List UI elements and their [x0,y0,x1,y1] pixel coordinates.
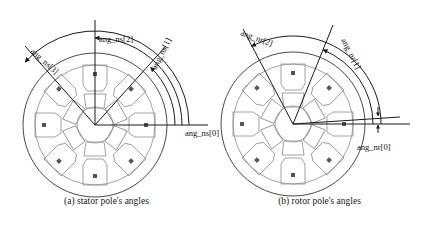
label-ang-nr-2: ang_nr[2] [239,27,274,48]
label-ang-ns-1: ang_ns[1] [149,36,173,71]
figure-root: ang_ns[0] ang_ns[1] ang_ns[2] ang_ns[3] [0,0,426,228]
label-ang-ns-2: ang_ns[2] [99,34,133,44]
label-ang-nr-1: ang_nr[1] [339,36,363,71]
caption-stator-panel: (a) stator pole's angles [0,196,213,206]
rotor-arc-ang-nr-2 [252,36,381,124]
panel-stator: ang_ns[0] ang_ns[1] ang_ns[2] ang_ns[3] [23,20,219,197]
label-ang-nr-0: ang_nr[0] [357,142,391,152]
label-ang-ns-0: ang_ns[0] [185,128,219,138]
panel-rotor: ang_nr[2] ang_nr[1] ang_nr[0] [221,25,410,196]
motor-pole-angle-diagram: ang_ns[0] ang_ns[1] ang_ns[2] ang_ns[3] [0,0,426,228]
label-ang-ns-3: ang_ns[3] [29,46,61,76]
stator-arc-ang-ns-2 [95,38,182,125]
caption-rotor-panel: (b) rotor pole's angles [213,196,426,206]
